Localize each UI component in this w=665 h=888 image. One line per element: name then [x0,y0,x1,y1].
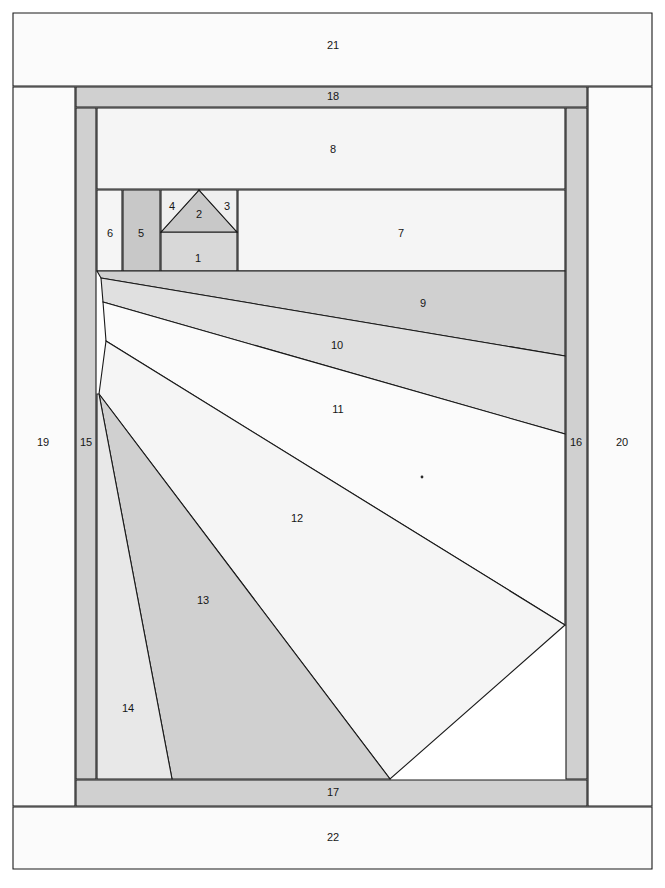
region-label-7: 7 [398,227,404,239]
region-label-16: 16 [570,436,582,448]
region-label-3: 3 [224,200,230,212]
region-label-17: 17 [327,786,339,798]
region-label-9: 9 [420,297,426,309]
region-label-4: 4 [169,200,175,212]
region-diagram: 12345678910111213141516171819202122 [0,0,665,888]
region-label-20: 20 [616,436,628,448]
region-label-11: 11 [332,403,343,415]
region-label-14: 14 [122,702,134,714]
region-label-2: 2 [196,208,202,220]
regions-layer [13,13,652,869]
dot-mark [421,476,424,479]
region-label-18: 18 [327,90,339,102]
region-label-6: 6 [107,227,113,239]
region-label-19: 19 [37,436,49,448]
region-label-22: 22 [327,831,339,843]
region-label-15: 15 [80,436,92,448]
region-label-5: 5 [138,227,144,239]
marks-layer [421,476,424,479]
diagram-canvas: 12345678910111213141516171819202122 [0,0,665,888]
region-label-21: 21 [327,39,339,51]
region-label-10: 10 [331,339,343,351]
region-label-8: 8 [330,143,336,155]
region-label-1: 1 [195,252,201,264]
region-label-12: 12 [291,512,303,524]
region-label-13: 13 [197,594,209,606]
